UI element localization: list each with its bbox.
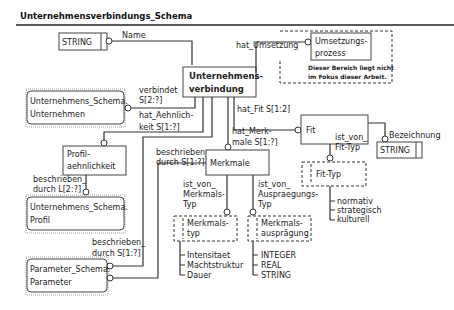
svg-text:Fit-Typ: Fit-Typ (335, 143, 360, 152)
svg-text:INTEGER: INTEGER (261, 251, 297, 260)
entity-profilaehnlichkeit[interactable]: Profil- aehnlichkeit (63, 146, 126, 175)
type-fit-typ[interactable]: Fit-Typ (302, 162, 366, 186)
rel-name-label: Name (122, 31, 146, 40)
svg-text:Profil: Profil (30, 216, 50, 225)
svg-text:Unternehmen: Unternehmen (30, 110, 85, 119)
rel-name-line (112, 41, 192, 65)
fit-typ-enum-branches (330, 186, 335, 220)
scope-note-2: im Fokus dieser Arbeit. (308, 73, 387, 80)
svg-text:normativ: normativ (337, 197, 373, 206)
svg-text:hat_Aehnlich-: hat_Aehnlich- (139, 111, 193, 120)
svg-text:Intensitaet: Intensitaet (187, 251, 230, 260)
svg-text:verbindet: verbindet (139, 86, 177, 95)
svg-text:ist_von_: ist_von_ (183, 180, 216, 189)
svg-text:REAL: REAL (261, 261, 282, 270)
rel-verbindet-circle-icon (125, 105, 131, 111)
svg-text:STRING: STRING (261, 271, 291, 280)
svg-text:Unternehmens-: Unternehmens- (189, 71, 264, 81)
ext-entity-unternehmen[interactable]: Unternehmens_Schema. Unternehmen (26, 89, 128, 127)
svg-text:durch S[1:?]: durch S[1:?] (156, 158, 205, 167)
svg-text:verbindung: verbindung (189, 84, 244, 94)
auspraegung-enum-branches (253, 241, 258, 275)
entity-umsetzungsprozess[interactable]: Umsetzungs- prozess (311, 33, 371, 60)
ext-entity-profil[interactable]: Unternehmens_Schema. Profil (26, 195, 128, 233)
svg-text:Fit-Typ: Fit-Typ (316, 170, 341, 179)
svg-text:Bezeichnung: Bezeichnung (389, 131, 441, 140)
svg-text:beschrieben_: beschrieben_ (33, 175, 87, 184)
rel-hat-merkmale-circle-icon (225, 144, 231, 150)
svg-text:ist_von_: ist_von_ (258, 180, 291, 189)
svg-text:Merkmals-: Merkmals- (183, 190, 225, 199)
rel-beschrieben-profil-circle-icon (83, 189, 89, 195)
svg-text:beschrieben_: beschrieben_ (156, 148, 210, 157)
type-merkmalstyp[interactable]: Merkmals- typ (174, 216, 237, 241)
svg-text:prozess: prozess (315, 49, 346, 58)
entity-unternehmensverbindung[interactable]: Unternehmens- verbindung (183, 67, 264, 97)
svg-text:Merkmale: Merkmale (210, 159, 250, 168)
svg-text:Typ: Typ (257, 200, 271, 209)
svg-text:hat_Merk-: hat_Merk- (232, 127, 272, 136)
type-merkmalsauspraegung[interactable]: Merkmals- ausprägung (248, 216, 311, 241)
rel-hat-aehnlichkeit-circle-icon (101, 140, 107, 146)
svg-text:Auspraegungs-: Auspraegungs- (258, 190, 318, 199)
svg-text:STRING: STRING (380, 146, 410, 155)
svg-text:ist_von_: ist_von_ (335, 133, 368, 142)
svg-text:S[2:?]: S[2:?] (139, 96, 162, 105)
entity-merkmale[interactable]: Merkmale (206, 150, 269, 175)
rel-bezeichnung-line (368, 123, 385, 136)
svg-text:typ: typ (187, 229, 200, 238)
rel-ist-von-fit-typ-circle-icon (327, 155, 333, 161)
scope-note-1: Dieser Bereich liegt nicht (308, 64, 394, 72)
svg-text:kulturell: kulturell (337, 215, 369, 224)
svg-text:durch S[1:?]: durch S[1:?] (92, 249, 141, 258)
string-type-fit[interactable]: STRING (377, 142, 422, 158)
svg-text:aehnlichkeit: aehnlichkeit (67, 162, 116, 171)
merkmalstyp-enum-branches (180, 241, 185, 275)
svg-text:beschrieben_: beschrieben_ (92, 238, 146, 247)
svg-text:Fit: Fit (306, 126, 315, 135)
express-g-diagram: Unternehmensverbindungs_Schema STRING Na… (0, 0, 454, 310)
svg-text:STRING: STRING (62, 38, 92, 47)
svg-text:Merkmals-: Merkmals- (261, 219, 303, 228)
rel-beschrieben-param-circle-icon (107, 263, 113, 269)
rel-ist-von-auspraegungstyp-circle-icon (250, 209, 256, 215)
rel-name-circle-icon (106, 38, 112, 44)
rel-hat-umsetzung-label: hat_Umsetzung (236, 41, 298, 50)
svg-text:durch L[2:?]: durch L[2:?] (33, 185, 81, 194)
svg-text:Unternehmens_Schema.: Unternehmens_Schema. (30, 97, 128, 106)
svg-text:male S[1:?]: male S[1:?] (232, 138, 278, 147)
rel-ist-von-merkmalstyp-circle-icon (224, 209, 230, 215)
svg-text:keit S[1:?]: keit S[1:?] (139, 123, 180, 132)
svg-text:Parameter_Schema.: Parameter_Schema. (30, 265, 110, 274)
svg-text:Umsetzungs-: Umsetzungs- (315, 37, 367, 46)
rel-beschrieben-merkmale-circle-icon (107, 275, 113, 281)
svg-text:Typ: Typ (182, 200, 196, 209)
svg-text:Profil-: Profil- (67, 150, 90, 159)
svg-text:strategisch: strategisch (337, 206, 382, 215)
string-type-top[interactable]: STRING (59, 33, 107, 50)
svg-text:ausprägung: ausprägung (261, 229, 309, 238)
diagram-title: Unternehmensverbindungs_Schema (20, 11, 193, 21)
rel-hat-fit-circle-icon (295, 127, 301, 133)
ext-entity-parameter[interactable]: Parameter_Schema. Parameter (26, 257, 110, 295)
svg-text:Merkmals-: Merkmals- (187, 219, 229, 228)
rel-bezeichnung-circle-icon (382, 136, 388, 142)
svg-text:hat_Fit S[1:2]: hat_Fit S[1:2] (237, 105, 290, 114)
svg-text:Machtstruktur: Machtstruktur (187, 261, 244, 270)
svg-text:Parameter: Parameter (30, 278, 72, 287)
svg-text:Dauer: Dauer (187, 271, 212, 280)
rel-hat-umsetzung-circle-icon (305, 39, 311, 45)
svg-text:Unternehmens_Schema.: Unternehmens_Schema. (30, 203, 128, 212)
